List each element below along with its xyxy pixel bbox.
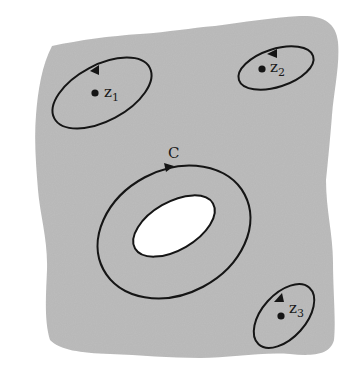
point-z2 [258,65,265,72]
label-C: C [168,144,179,162]
point-z1 [91,89,98,96]
diagram-canvas: C z1 z2 z3 [0,0,362,375]
point-z3 [277,312,284,319]
